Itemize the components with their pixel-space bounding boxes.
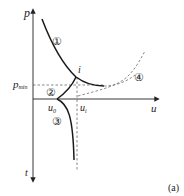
curve-1-extension-dashed: [104, 75, 135, 86]
intersection-label: i: [78, 64, 81, 75]
ui-label: ui: [80, 102, 87, 114]
panel-label: (a): [168, 182, 179, 194]
region-2-label: ②: [46, 86, 56, 98]
p-axis-label: p: [23, 6, 30, 20]
u0-label: u0: [48, 102, 56, 114]
p-min-label: pmin: [12, 78, 28, 90]
region-1-label: ①: [52, 35, 62, 47]
region-3-label: ③: [52, 115, 62, 127]
curve-1: [42, 19, 104, 86]
region-4-label: ④: [134, 71, 144, 83]
t-axis-label: t: [25, 167, 28, 178]
u-axis-label: u: [151, 102, 157, 114]
curve-2: [57, 77, 76, 99]
diagram-canvas: p t u pmin u0 ui i ① ② ③ ④ (a): [0, 0, 184, 196]
curve-3: [57, 99, 74, 160]
